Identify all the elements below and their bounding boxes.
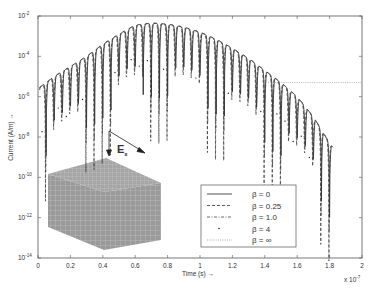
- legend-entry: β = 0: [252, 190, 271, 199]
- x-tick-label: 1.4: [260, 262, 269, 269]
- cube-right-face: [104, 183, 161, 250]
- y-axis-label: Current (A/m) →: [7, 113, 15, 161]
- x-tick-label: 1.8: [325, 262, 334, 269]
- legend-entry: β = ∞: [252, 236, 272, 245]
- x-tick-label: 2: [360, 262, 364, 269]
- x-tick-label: 0: [36, 262, 40, 269]
- y-tick-label: 10-4: [18, 51, 30, 59]
- legend-entry: β = 0.25: [252, 202, 282, 211]
- legend-entry: β = 4: [252, 225, 271, 234]
- x-tick-label: 1: [198, 262, 202, 269]
- x-axis-label: Time (s) →: [182, 270, 214, 278]
- y-tick-label: 10-2: [18, 11, 30, 19]
- x-tick-label: 1.2: [228, 262, 237, 269]
- x-tick-label: 0.8: [163, 262, 172, 269]
- y-tick-label: 10-12: [18, 213, 32, 221]
- y-tick-label: 10-8: [18, 132, 30, 140]
- x-tick-label: 0.4: [98, 262, 107, 269]
- y-tick-label: 10-14: [18, 253, 32, 261]
- legend: β = 0β = 0.25β = 1.0β = 4β = ∞: [201, 185, 296, 247]
- legend-entry: β = 1.0: [252, 213, 277, 222]
- x-multiplier: x 10-7: [344, 275, 361, 283]
- y-tick-label: 10-10: [18, 172, 32, 180]
- x-tick-label: 1.6: [293, 262, 302, 269]
- y-tick-label: 10-6: [18, 92, 30, 100]
- x-tick-label: 0.2: [66, 262, 75, 269]
- x-tick-label: 0.6: [131, 262, 140, 269]
- chart: 00.20.40.60.811.21.41.61.82 10-210-410-6…: [0, 0, 373, 290]
